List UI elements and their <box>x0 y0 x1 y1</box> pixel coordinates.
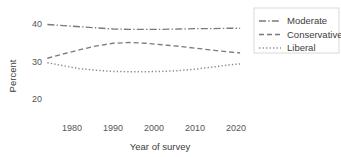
legend-item-liberal[interactable]: Liberal <box>287 42 316 53</box>
legend-item-conservative[interactable]: Conservative <box>287 29 341 40</box>
legend-item-moderate[interactable]: Moderate <box>287 15 327 26</box>
y-tick-label: 20 <box>32 94 42 104</box>
x-tick-label: 1990 <box>103 123 123 133</box>
y-axis-title: Percent <box>7 59 18 92</box>
x-tick-label: 1980 <box>62 123 82 133</box>
series-line-liberal <box>47 63 240 72</box>
y-tick-label: 30 <box>32 57 42 67</box>
chart-container: Percentage of respondents by political v… <box>0 0 341 157</box>
x-tick-label: 2000 <box>144 123 164 133</box>
x-axis-tick-labels: 19801990200020102020 <box>62 123 246 133</box>
series-line-conservative <box>47 43 240 59</box>
x-tick-label: 2010 <box>185 123 205 133</box>
y-axis-tick-labels: 40 30 20 <box>32 19 42 104</box>
x-tick-label: 2020 <box>226 123 246 133</box>
x-axis-title: Year of survey <box>130 141 191 152</box>
series-line-moderate <box>47 25 240 30</box>
line-chart-svg: 40 30 20 Percent 19801990200020102020 Ye… <box>0 0 341 157</box>
series-lines <box>47 25 240 72</box>
y-tick-label: 40 <box>32 19 42 29</box>
